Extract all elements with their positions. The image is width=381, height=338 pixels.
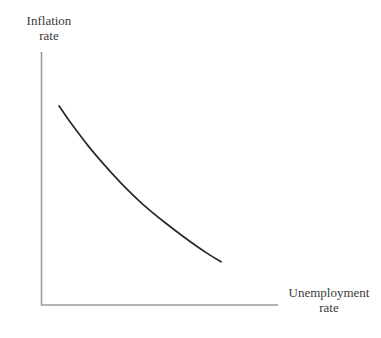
phillips-curve-path: [59, 106, 221, 262]
phillips-curve-figure: Inflation rate Unemployment rate: [0, 0, 381, 338]
plot-area: [0, 0, 381, 338]
